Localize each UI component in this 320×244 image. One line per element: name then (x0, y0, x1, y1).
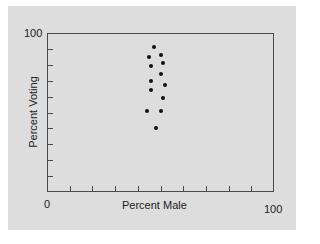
x-tick (251, 186, 252, 192)
data-point (149, 79, 153, 83)
data-point (159, 72, 163, 76)
y-tick (47, 97, 53, 98)
data-point (145, 109, 149, 113)
data-point (161, 96, 165, 100)
y-tick (47, 160, 53, 161)
x-tick (206, 186, 207, 192)
y-axis-max-label: 100 (24, 27, 42, 39)
data-point (149, 88, 153, 92)
y-tick (47, 176, 53, 177)
x-axis-min-label: 0 (44, 198, 50, 210)
data-point (159, 53, 163, 57)
x-tick (138, 186, 139, 192)
data-point (147, 55, 151, 59)
x-tick (183, 186, 184, 192)
y-tick (47, 49, 53, 50)
x-tick (115, 186, 116, 192)
x-axis-title: Percent Male (122, 199, 187, 211)
x-tick (161, 186, 162, 192)
y-tick (47, 128, 53, 129)
y-tick (47, 144, 53, 145)
x-tick (92, 186, 93, 192)
y-tick (47, 113, 53, 114)
x-tick (229, 186, 230, 192)
x-tick (70, 186, 71, 192)
y-tick (47, 65, 53, 66)
data-point (149, 64, 153, 68)
x-axis-max-label: 100 (264, 203, 282, 215)
y-tick (47, 81, 53, 82)
data-point (154, 126, 158, 130)
data-point (163, 83, 167, 87)
data-point (161, 61, 165, 65)
y-axis-title: Percent Voting (27, 76, 39, 148)
data-point (152, 45, 156, 49)
data-point (159, 109, 163, 113)
